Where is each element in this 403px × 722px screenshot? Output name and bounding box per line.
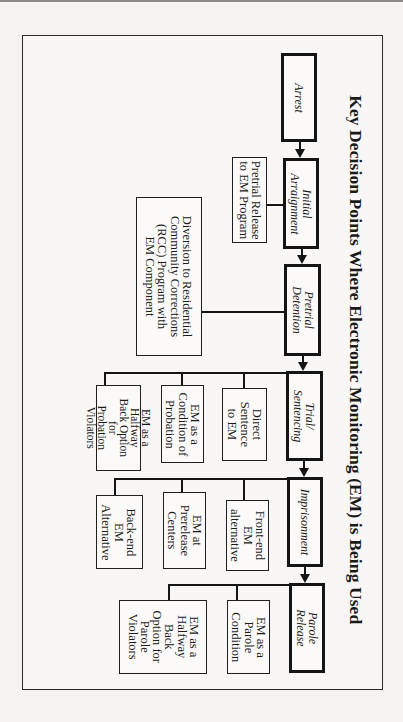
option-em-halfway-probation-label: EM as aHalfwayBack OptionforProbationVio… [86, 399, 152, 457]
option-back-end-em-label: Back-endEMAlternative [101, 504, 138, 560]
arrow-down-icon [299, 468, 309, 477]
option-rcc-diversion-label: Diversion to ResidentialCommunity Correc… [145, 216, 194, 338]
option-direct-sentence-em: DirectSentenceto EM [222, 388, 267, 461]
option-em-parole-condition-label: EM as aParoleCondition [230, 612, 267, 662]
diagram-title: Key Decision Points Where Electronic Mon… [343, 40, 369, 680]
diagram-title-text: Key Decision Points Where Electronic Mon… [347, 95, 365, 624]
option-pretrial-release-em-label: Pretrial Releaseto EM Program [237, 161, 262, 240]
stage-parole-release: ParoleRelease [289, 583, 325, 673]
stage-trial-sentencing: Trial/Sentencing [286, 371, 323, 461]
connector-front-end [243, 478, 245, 500]
connector-probation-condition [181, 372, 183, 385]
option-em-halfway-probation: EM as aHalfwayBack OptionforProbationVio… [96, 385, 141, 471]
parole-branch-bus [168, 584, 289, 586]
option-pretrial-release-em: Pretrial Releaseto EM Program [232, 157, 267, 243]
option-em-prerelease-centers: EM atPrereleaseCenters [163, 492, 206, 569]
option-em-condition-probation-label: EM as aCondition ofProbation [164, 392, 201, 456]
diagram-frame [22, 35, 383, 690]
arrow-down-icon [297, 255, 307, 264]
connector-probation-halfway [104, 372, 106, 385]
connector-arraignment-option [266, 204, 283, 206]
connector-direct-sentence [243, 372, 245, 388]
stage-pretrial-detention: PretrialDetention [284, 264, 321, 356]
stage-arrest: Arrest [281, 53, 317, 142]
imprisonment-branch-bus [114, 478, 287, 480]
option-front-end-em: Front-endEMalternative [226, 500, 269, 571]
option-em-parole-condition: EM as aParoleCondition [227, 600, 270, 674]
option-em-prerelease-centers-label: EM atPrereleaseCenters [166, 505, 203, 556]
stage-arrest-label: Arrest [293, 83, 305, 113]
stage-imprisonment-label: Imprisonment [299, 489, 311, 556]
connector-detention-option [201, 311, 284, 313]
option-front-end-em-label: Front-endEMalternative [229, 509, 266, 562]
connector-parole-condition [236, 584, 238, 600]
option-em-halfway-parole-label: EM as aHalfwayBackOption forParoleViolat… [126, 611, 200, 663]
arrow-down-icon [295, 149, 305, 158]
arrow-down-icon [298, 362, 308, 371]
stage-trial-sentencing-label: Trial/Sentencing [293, 390, 317, 443]
option-em-halfway-parole: EM as aHalfwayBackOption forParoleViolat… [119, 600, 207, 674]
stage-imprisonment: Imprisonment [287, 477, 323, 567]
stage-pretrial-detention-label: PretrialDetention [291, 286, 315, 333]
sentencing-branch-bus [104, 372, 286, 374]
stage-initial-arraignment-label: InitialArraignment [289, 173, 313, 234]
connector-prerelease [181, 478, 183, 492]
stage-parole-release-label: ParoleRelease [295, 609, 319, 646]
page-top-edge [0, 0, 403, 2]
stage-initial-arraignment: InitialArraignment [283, 158, 319, 249]
connector-parole-halfway [168, 584, 170, 600]
option-direct-sentence-em-label: DirectSentenceto EM [226, 402, 263, 447]
arrow-down-icon [300, 574, 310, 583]
connector-back-end [114, 478, 116, 495]
option-em-condition-probation: EM as aCondition ofProbation [161, 385, 204, 463]
option-rcc-diversion: Diversion to ResidentialCommunity Correc… [136, 197, 202, 356]
option-back-end-em: Back-endEMAlternative [96, 495, 143, 569]
